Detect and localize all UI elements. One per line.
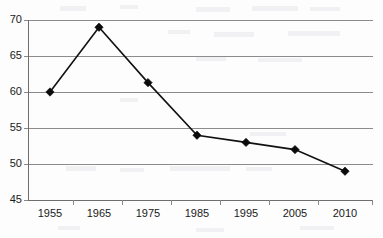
y-tick-label-55: 55 bbox=[10, 121, 22, 133]
chart-canvas: 70 65 60 55 50 45 1955 1965 1975 1985 19… bbox=[0, 0, 383, 238]
line-chart: 70 65 60 55 50 45 1955 1965 1975 1985 19… bbox=[0, 0, 383, 238]
x-tick-label-2010: 2010 bbox=[333, 207, 357, 219]
x-tick-label-1965: 1965 bbox=[87, 207, 111, 219]
y-tick-label-70: 70 bbox=[10, 13, 22, 25]
x-tick-label-1995: 1995 bbox=[234, 207, 258, 219]
x-tick-label-1975: 1975 bbox=[136, 207, 160, 219]
y-tick-label-65: 65 bbox=[10, 49, 22, 61]
y-tick-label-60: 60 bbox=[10, 85, 22, 97]
y-tick-label-45: 45 bbox=[10, 193, 22, 205]
x-tick-label-2005: 2005 bbox=[283, 207, 307, 219]
x-tick-label-1955: 1955 bbox=[38, 207, 62, 219]
x-tick-label-1985: 1985 bbox=[185, 207, 209, 219]
y-tick-label-50: 50 bbox=[10, 157, 22, 169]
